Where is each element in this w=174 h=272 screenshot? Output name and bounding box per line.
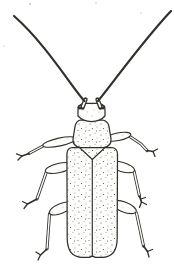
hind-right-claws (148, 250, 153, 258)
front-left-tibia-core (29, 146, 44, 154)
middle-right-tibia-core (134, 171, 140, 196)
pronotum (73, 120, 111, 148)
hind-left-claws (36, 252, 41, 260)
beetle-illustration (0, 0, 174, 272)
front-right-tarsus (147, 151, 153, 152)
middle-left-tibia-core (37, 172, 47, 200)
middle-right-claws (140, 198, 147, 208)
illustration-canvas (0, 0, 174, 272)
front-left-claws (17, 154, 23, 160)
hind-left-tarsus (41, 249, 48, 255)
hind-right-tibia-core (137, 213, 144, 246)
middle-left-leg (23, 160, 74, 208)
middle-left-tarsus (28, 199, 38, 204)
left-antenna (14, 16, 85, 101)
middle-left-claws (23, 202, 28, 209)
beetle (14, 11, 171, 260)
right-antenna (98, 11, 171, 101)
hind-right-tarsus (144, 246, 148, 252)
front-left-tarsus (22, 154, 29, 157)
front-right-claws (153, 149, 158, 157)
